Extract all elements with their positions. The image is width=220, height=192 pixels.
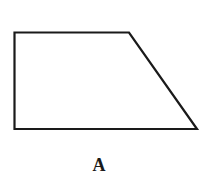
trapezoid-diagram [0,0,220,192]
trapezoid-shape [15,33,198,130]
figure-label: A [89,155,109,176]
